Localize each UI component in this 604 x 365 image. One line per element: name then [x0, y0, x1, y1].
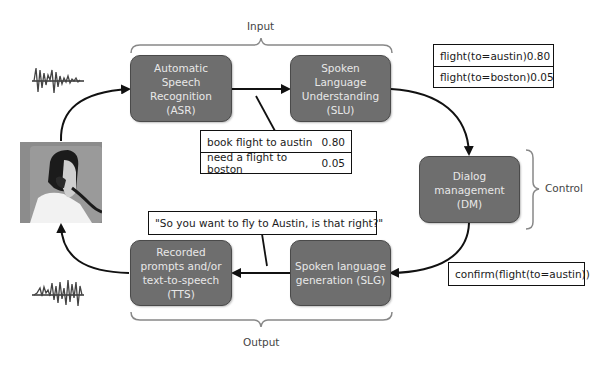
dm-line: management [434, 183, 504, 197]
slg-line: Spoken language [295, 259, 386, 273]
slu-line: Language [315, 75, 367, 89]
input-brace [131, 38, 392, 53]
asr-line: Recognition [150, 89, 212, 103]
slu-nbest-table: flight(to=austin) 0.80 flight(to=boston)… [433, 44, 554, 88]
slg-line: generation (SLG) [296, 273, 385, 287]
slu-nbest-row: flight(to=austin) 0.80 [434, 45, 553, 66]
meaning-text: flight(to=austin) [440, 50, 527, 62]
meaning-score: 0.80 [527, 50, 550, 62]
slg-node: Spoken language generation (SLG) [290, 240, 391, 306]
person-on-phone-image [20, 142, 102, 223]
input-label: Input [247, 20, 274, 32]
meaning-score: 0.05 [530, 71, 553, 83]
control-label: Control [545, 182, 583, 194]
slu-nbest-row: flight(to=boston) 0.05 [434, 66, 553, 87]
asr-nbest-table: book flight to austin 0.80 need a flight… [200, 130, 352, 174]
arrow-tts-to-user [61, 225, 129, 273]
dm-action-box: confirm(flight(to=austin)) [448, 262, 585, 286]
slg-output-box: "So you want to fly to Austin, is that r… [148, 211, 377, 235]
asr-nbest-row: need a flight to boston 0.05 [201, 152, 351, 173]
output-label: Output [243, 336, 279, 348]
tts-line: prompts and/or [140, 259, 221, 273]
arrow-user-to-asr [61, 89, 129, 141]
slg-callout-line [262, 234, 267, 266]
output-brace [131, 312, 392, 327]
asr-line: Automatic [154, 61, 208, 75]
slu-line: Spoken [321, 61, 360, 75]
hypothesis-text: need a flight to boston [207, 151, 322, 175]
tts-line: (TTS) [167, 287, 195, 301]
control-brace [526, 150, 539, 229]
slu-line: Understanding [302, 89, 379, 103]
arrow-slu-to-dm [391, 89, 469, 154]
waveform-out-icon [32, 280, 84, 306]
dm-line: Dialog [453, 169, 486, 183]
tts-line: text-to-speech [143, 273, 220, 287]
hypothesis-score: 0.05 [322, 157, 345, 169]
asr-nbest-row: book flight to austin 0.80 [201, 131, 351, 152]
hypothesis-score: 0.80 [322, 136, 345, 148]
asr-line: (ASR) [166, 103, 195, 117]
asr-node: Automatic Speech Recognition (ASR) [130, 55, 232, 122]
slu-line: (SLU) [327, 103, 355, 117]
tts-line: Recorded [156, 245, 205, 259]
dm-node: Dialog management (DM) [419, 156, 520, 223]
dm-line: (DM) [457, 197, 482, 211]
asr-line: Speech [162, 75, 201, 89]
tts-node: Recorded prompts and/or text-to-speech (… [130, 240, 232, 306]
meaning-text: flight(to=boston) [440, 71, 530, 83]
asr-callout-line [256, 96, 275, 131]
waveform-in-icon [32, 68, 84, 93]
hypothesis-text: book flight to austin [207, 136, 312, 148]
slu-node: Spoken Language Understanding (SLU) [290, 55, 391, 122]
